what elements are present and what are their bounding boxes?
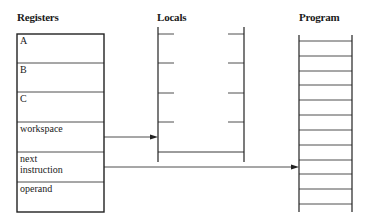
program-rungs [299, 41, 352, 204]
arrowhead-icon [291, 165, 299, 170]
diagram-canvas [0, 0, 371, 223]
arrowhead-icon [150, 135, 158, 140]
register-workspace-label: workspace [20, 123, 63, 134]
register-operand-label: operand [20, 183, 52, 194]
register-next-instruction-line1: next [20, 153, 37, 164]
register-c-label: C [20, 93, 27, 104]
register-a-label: A [20, 35, 27, 46]
register-b-label: B [20, 64, 27, 75]
locals-ticks [158, 34, 244, 122]
register-next-instruction-line2: instruction [20, 164, 63, 175]
